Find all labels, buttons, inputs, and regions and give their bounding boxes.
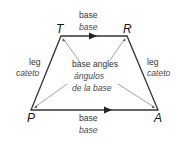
bottom-base-label-en: base: [79, 113, 98, 123]
base-angles-label-en: base angles: [72, 59, 118, 69]
bottom-base-label-es: base: [79, 125, 98, 135]
vertex-label-A: A: [154, 112, 162, 124]
vertex-label-R: R: [123, 23, 132, 35]
vertex-label-P: P: [27, 112, 35, 124]
vertex-label-T: T: [56, 23, 63, 35]
top-base-label-es: base: [79, 22, 98, 32]
base-angles-label-es-line1: ángulos: [74, 71, 104, 81]
right-leg-label-en: leg: [147, 57, 158, 67]
trapezoid-diagram: T R P A base base leg cateto leg cateto …: [0, 0, 176, 144]
right-leg-label-es: cateto: [147, 68, 170, 78]
base-angles-label-es-line2: de la base: [72, 83, 111, 93]
bottom-base-parallel-arrow: [104, 107, 112, 114]
pointer-line-R: [110, 40, 124, 60]
top-base-parallel-arrow: [89, 33, 97, 40]
left-leg-label-es: cateto: [16, 68, 39, 78]
arrowhead-T: [62, 38, 65, 41]
top-base-label-en: base: [79, 10, 98, 20]
left-leg-label-en: leg: [29, 57, 40, 67]
